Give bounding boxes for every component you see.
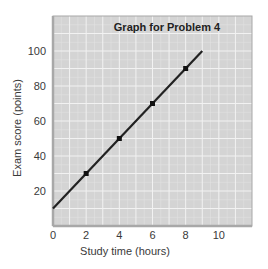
x-tick-label: 10 xyxy=(213,229,225,241)
x-axis-label: Study time (hours) xyxy=(80,245,170,257)
x-tick-label: 4 xyxy=(116,229,122,241)
y-axis-ticks: 20406080100 xyxy=(28,45,46,197)
y-tick-label: 40 xyxy=(34,150,46,162)
x-tick-label: 8 xyxy=(183,229,189,241)
x-tick-label: 6 xyxy=(149,229,155,241)
chart-title: Graph for Problem 4 xyxy=(114,21,221,33)
data-point-marker xyxy=(117,136,122,141)
data-point-marker xyxy=(84,171,89,176)
x-tick-label: 2 xyxy=(83,229,89,241)
x-axis-ticks: 0246810 xyxy=(50,229,225,241)
data-point-marker xyxy=(150,101,155,106)
y-axis-label: Exam score (points) xyxy=(11,79,23,177)
line-chart: Graph for Problem 4 0246810 20406080100 … xyxy=(0,0,268,269)
x-tick-label: 0 xyxy=(50,229,56,241)
y-tick-label: 100 xyxy=(28,45,46,57)
y-tick-label: 20 xyxy=(34,185,46,197)
y-tick-label: 80 xyxy=(34,80,46,92)
y-tick-label: 60 xyxy=(34,115,46,127)
data-point-marker xyxy=(183,66,188,71)
